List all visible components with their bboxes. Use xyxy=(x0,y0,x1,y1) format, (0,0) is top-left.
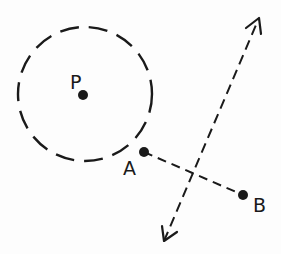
point-a xyxy=(139,147,149,157)
arrowhead-bottom-icon xyxy=(162,226,177,241)
point-b xyxy=(238,190,248,200)
diagram-svg: P A B xyxy=(0,0,281,254)
diagram-canvas: P A B xyxy=(0,0,281,254)
label-p: P xyxy=(70,71,81,93)
label-a: A xyxy=(123,157,136,179)
perpendicular-bisector-line xyxy=(164,18,259,241)
label-b: B xyxy=(253,194,266,216)
